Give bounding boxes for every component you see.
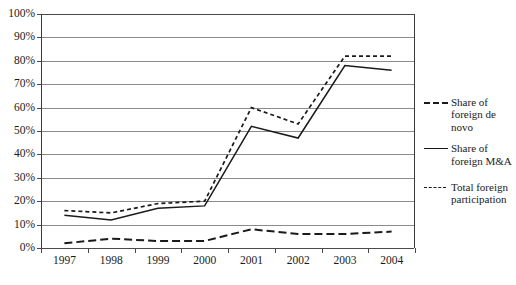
data-series-layer xyxy=(41,14,415,248)
x-tick-mark xyxy=(181,248,182,253)
series-line xyxy=(64,56,391,213)
x-tick-label-2000: 2000 xyxy=(182,254,228,266)
legend-swatch-icon xyxy=(424,102,448,104)
legend-item[interactable]: Share of foreign de novo xyxy=(424,96,516,133)
x-tick-label-1998: 1998 xyxy=(88,254,134,266)
legend-label: Share of foreign de novo xyxy=(451,96,516,133)
series-line xyxy=(64,65,391,219)
x-tick-label-2001: 2001 xyxy=(228,254,274,266)
x-tick-mark xyxy=(275,248,276,253)
legend-label: Share of foreign M&A xyxy=(451,142,516,167)
y-tick-label: 60% xyxy=(0,102,40,114)
legend-label: Total foreign participation xyxy=(451,181,516,206)
legend-item[interactable]: Total foreign participation xyxy=(424,181,516,206)
y-tick-label: 20% xyxy=(0,195,40,207)
x-tick-mark xyxy=(368,248,369,253)
legend-item[interactable]: Share of foreign M&A xyxy=(424,142,516,167)
x-tick-label-2004: 2004 xyxy=(369,254,415,266)
y-tick-label: 100% xyxy=(0,8,40,20)
x-tick-mark xyxy=(135,248,136,253)
y-tick-label: 40% xyxy=(0,148,40,160)
legend-swatch-icon xyxy=(424,148,448,149)
chart-legend: Share of foreign de novoShare of foreign… xyxy=(424,96,516,215)
y-tick-label: 80% xyxy=(0,55,40,67)
x-tick-label-2003: 2003 xyxy=(322,254,368,266)
x-tick-mark xyxy=(228,248,229,253)
x-tick-label-1999: 1999 xyxy=(135,254,181,266)
x-tick-label-1997: 1997 xyxy=(41,254,87,266)
y-tick-label: 30% xyxy=(0,172,40,184)
y-tick-label: 0% xyxy=(0,242,40,254)
y-tick-label: 70% xyxy=(0,78,40,90)
y-tick-label: 10% xyxy=(0,219,40,231)
y-tick-label: 50% xyxy=(0,125,40,137)
x-tick-mark xyxy=(415,248,416,253)
y-tick-label: 90% xyxy=(0,31,40,43)
chart-figure: 0%10%20%30%40%50%60%70%80%90%100% 199719… xyxy=(0,0,516,285)
x-tick-label-2002: 2002 xyxy=(275,254,321,266)
series-line xyxy=(64,229,391,243)
x-tick-mark xyxy=(322,248,323,253)
legend-swatch-icon xyxy=(424,187,446,188)
x-tick-mark xyxy=(88,248,89,253)
x-tick-mark xyxy=(41,248,42,253)
